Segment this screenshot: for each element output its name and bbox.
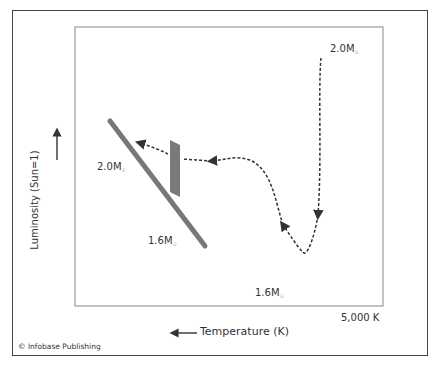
y-axis-label: Luminosity (Sun=1): [29, 150, 40, 249]
label-left-mass-lower: 1.6M☉: [148, 235, 177, 247]
credit-text: © Infobase Publishing: [18, 342, 101, 351]
x-axis-label: Temperature (K): [200, 325, 289, 338]
track-segment: [182, 159, 212, 161]
track-exit-arrow: [140, 143, 168, 154]
track-loop-arrow: [283, 215, 318, 253]
label-top-right-mass: 2.0M☉: [330, 43, 359, 55]
instability-band: [170, 140, 180, 197]
x-tick-label: 5,000 K: [341, 312, 379, 323]
label-bottom-mass: 1.6M☉: [255, 287, 284, 299]
label-left-mass-upper: 2.0M☉: [97, 161, 126, 173]
main-sequence-line: [110, 121, 205, 246]
track-leftward-arrow: [212, 158, 283, 225]
track-descent-arrow: [318, 58, 321, 215]
